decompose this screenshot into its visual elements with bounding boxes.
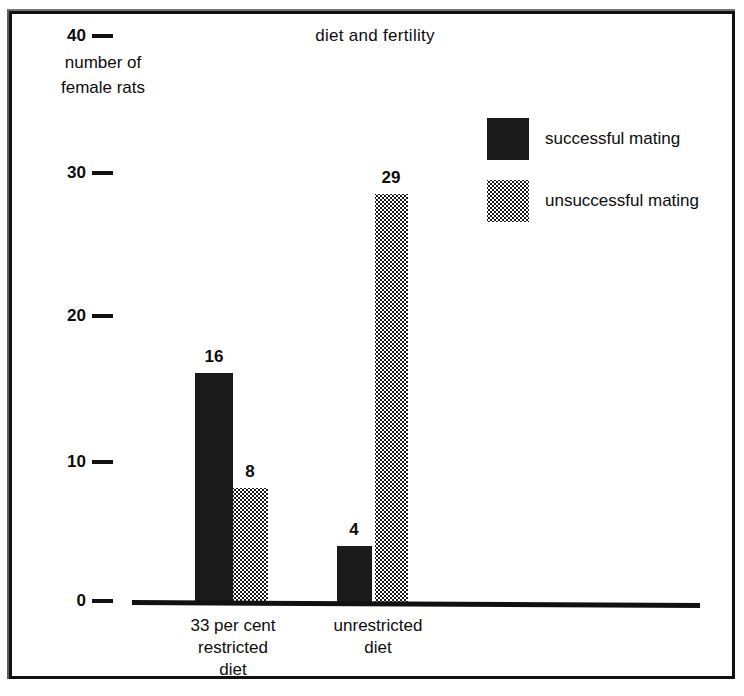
- category-label-line2: diet: [308, 637, 448, 659]
- y-tick-10: 10: [40, 452, 86, 472]
- y-tick-dash-0: [92, 599, 113, 603]
- y-tick-30: 30: [40, 163, 86, 183]
- y-tick-20: 20: [40, 306, 86, 326]
- y-tick-dash-10: [92, 460, 113, 464]
- y-axis-caption-line2: female rats: [44, 75, 162, 100]
- x-axis-category-restricted: 33 per cent restricted diet: [163, 615, 303, 681]
- legend-swatch-successful: [487, 118, 529, 160]
- x-axis-baseline: [132, 600, 700, 608]
- chart-title: diet and fertility: [240, 26, 510, 46]
- bar-unsuccessful-unrestricted: [375, 194, 408, 603]
- y-tick-label-40: 40: [67, 26, 86, 45]
- bar-successful-restricted: [195, 373, 233, 601]
- category-label-line1: unrestricted: [308, 615, 448, 637]
- category-label-line1: 33 per cent: [163, 615, 303, 637]
- bar-rect: [195, 373, 233, 601]
- y-tick-dash-30: [92, 171, 113, 175]
- category-label-line3: diet: [163, 659, 303, 681]
- category-label-line2: restricted: [163, 637, 303, 659]
- bar-rect: [233, 488, 268, 601]
- y-tick-label-30: 30: [67, 163, 86, 182]
- chart-page: diet and fertility number of female rats…: [0, 0, 744, 696]
- y-tick-label-20: 20: [67, 306, 86, 325]
- y-tick-0: 0: [40, 591, 86, 611]
- legend-label-successful: successful mating: [545, 129, 680, 149]
- bar-rect: [375, 194, 408, 603]
- legend-label-unsuccessful: unsuccessful mating: [545, 191, 699, 211]
- bar-value-unsuccessful-restricted: 8: [221, 462, 279, 482]
- y-tick-label-0: 0: [77, 591, 86, 610]
- bar-value-unsuccessful-unrestricted: 29: [362, 168, 420, 188]
- plot-area: diet and fertility number of female rats…: [0, 0, 744, 696]
- x-axis-category-unrestricted: unrestricted diet: [308, 615, 448, 659]
- y-tick-label-10: 10: [67, 452, 86, 471]
- bar-rect: [337, 546, 372, 603]
- y-tick-40: 40: [40, 26, 86, 46]
- bar-successful-unrestricted: [337, 546, 372, 603]
- y-tick-dash-20: [92, 314, 113, 318]
- bar-value-successful-restricted: 16: [185, 347, 243, 367]
- bar-unsuccessful-restricted: [233, 488, 268, 601]
- y-axis-caption: number of female rats: [44, 50, 162, 100]
- legend-swatch-unsuccessful: [487, 180, 529, 222]
- y-tick-dash-40: [92, 34, 113, 38]
- y-axis-caption-line1: number of: [44, 50, 162, 75]
